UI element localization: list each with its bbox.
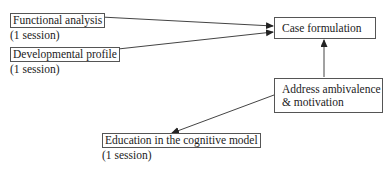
node-label: Functional analysis — [13, 14, 102, 26]
arrow-developmental-to-case — [118, 32, 273, 49]
node-label-line1: Address ambivalence — [282, 83, 375, 96]
session-note-developmental: (1 session) — [10, 63, 60, 75]
session-note-education: (1 session) — [102, 149, 152, 161]
node-case-formulation: Case formulation — [274, 17, 376, 39]
node-address-ambivalence: Address ambivalence & motivation — [274, 78, 383, 113]
node-developmental-profile: Developmental profile — [10, 47, 120, 62]
node-label-line2: & motivation — [282, 96, 375, 109]
node-functional-analysis: Functional analysis — [10, 13, 105, 28]
arrow-functional-to-case — [101, 17, 273, 26]
arrow-address-to-education — [172, 95, 274, 133]
node-label: Developmental profile — [13, 48, 117, 60]
session-note-functional: (1 session) — [10, 29, 60, 41]
node-label: Education in the cognitive model — [105, 134, 258, 146]
node-education-cognitive-model: Education in the cognitive model — [102, 133, 261, 148]
node-label: Case formulation — [282, 22, 362, 34]
